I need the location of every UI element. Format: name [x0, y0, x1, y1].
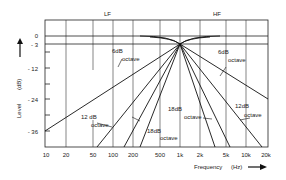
hf-18db-label: 18dB: [168, 106, 182, 112]
y-ticks: [45, 52, 50, 131]
x-tick-20k: 20k: [256, 152, 276, 158]
hf-section-label: HF: [213, 11, 221, 17]
lf-18db-label: 18dB: [147, 128, 161, 134]
x-tick-200: 200: [123, 152, 143, 158]
x-axis-unit: (Hz): [231, 164, 242, 170]
annotation-arrows: [97, 59, 250, 127]
y-axis-label: Level: [16, 104, 22, 118]
y-tick-0: 0: [20, 33, 38, 39]
x-tick-10k: 10k: [236, 152, 256, 158]
lf-12db-octave: octave: [91, 122, 109, 128]
x-tick-1k: 1k: [170, 152, 190, 158]
x-tick-20: 20: [56, 152, 76, 158]
x-tick-50: 50: [83, 152, 103, 158]
hf-12db-octave: octave: [244, 112, 262, 118]
y-tick-minus24: - 24: [20, 97, 38, 103]
hf-6db-label: 6dB: [218, 49, 229, 55]
x-tick-10: 10: [36, 152, 56, 158]
x-tick-100: 100: [103, 152, 123, 158]
hf-18db-octave: octave: [184, 114, 202, 120]
y-tick-minus36: - 36: [20, 129, 38, 135]
x-tick-500: 500: [150, 152, 170, 158]
y-tick-minus12: - 12: [20, 66, 38, 72]
x-tick-5k: 5k: [216, 152, 236, 158]
lf-section-label: LF: [104, 11, 111, 17]
hf-6db-octave: octave: [228, 57, 246, 63]
x-axis-label: Frequency: [194, 164, 222, 170]
lf-12db-label: 12 dB: [81, 114, 97, 120]
lf-6db-octave: octave: [122, 56, 140, 62]
y-axis-unit: (dB): [16, 79, 22, 90]
x-tick-2k: 2k: [190, 152, 210, 158]
hf-12db-label: 12dB: [235, 103, 249, 109]
lf-6db-label: 6dB: [112, 48, 123, 54]
lf-18db-octave: octave: [160, 135, 178, 141]
y-tick-minus3: - 3: [20, 42, 38, 48]
x-axis-arrow-icon: [248, 164, 267, 170]
